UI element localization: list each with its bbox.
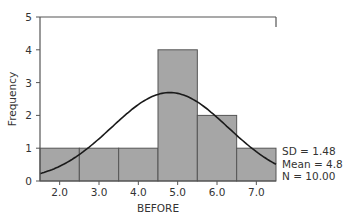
x-tick-label: 4.0 [130,186,147,198]
x-tick-label: 2.0 [51,186,68,198]
histogram-bar [119,148,158,181]
y-axis-title: Frequency [6,72,18,126]
histogram-bar [79,148,118,181]
y-tick-label: 3 [25,77,32,89]
x-axis-title: BEFORE [137,202,179,214]
mean-label: Mean = 4.8 [282,158,343,171]
histogram-bar [197,115,236,181]
y-tick-label: 4 [25,44,32,56]
y-tick-label: 1 [25,142,32,154]
histogram-bar [237,148,276,181]
histogram-bar [40,148,79,181]
x-tick-label: 5.0 [169,186,186,198]
plot-area: 0123452.03.04.05.06.07.0 [25,11,276,198]
x-tick-label: 7.0 [248,186,265,198]
histogram-chart: 0123452.03.04.05.06.07.0 Frequency BEFOR… [0,0,348,222]
x-tick-label: 6.0 [209,186,226,198]
y-tick-label: 5 [25,11,32,23]
histogram-bar [158,50,197,181]
sd-label: SD = 1.48 [282,145,343,158]
n-label: N = 10.00 [282,170,343,183]
stats-legend: SD = 1.48 Mean = 4.8 N = 10.00 [282,145,343,183]
y-tick-label: 0 [25,175,32,187]
y-tick-label: 2 [25,109,32,121]
x-tick-label: 3.0 [91,186,108,198]
